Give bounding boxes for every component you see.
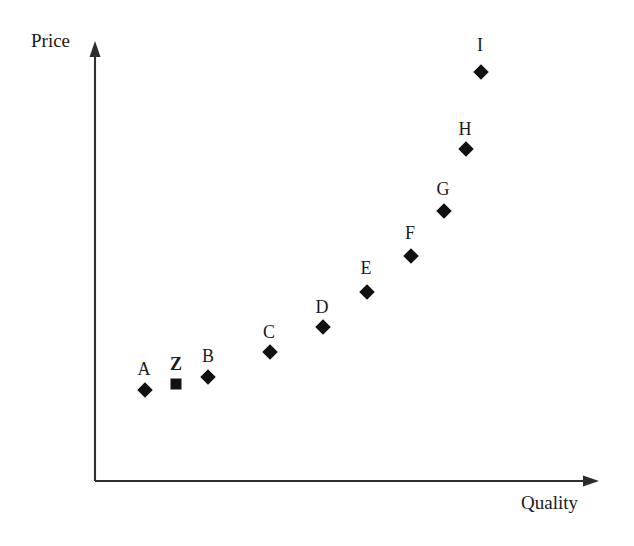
x-axis-title: Quality (521, 493, 578, 512)
data-label-i: I (477, 36, 483, 54)
x-axis-arrowhead (583, 476, 599, 487)
chart-axes-svg (0, 0, 634, 546)
data-label-z: Z (170, 355, 182, 373)
y-axis-arrowhead (90, 41, 101, 57)
scatter-chart: Price Quality A Z B C D E F G H I (0, 0, 634, 546)
data-label-h: H (459, 120, 472, 138)
data-label-b: B (202, 347, 214, 365)
data-label-f: F (405, 224, 415, 242)
data-label-c: C (263, 323, 275, 341)
data-label-a: A (138, 360, 151, 378)
y-axis-title: Price (31, 31, 70, 50)
data-label-g: G (437, 180, 450, 198)
data-label-d: D (316, 298, 329, 316)
data-marker-z (171, 379, 182, 390)
data-label-e: E (361, 259, 372, 277)
